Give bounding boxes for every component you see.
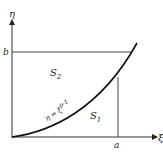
tick-b: b bbox=[3, 47, 9, 57]
tick-a: a bbox=[114, 140, 119, 150]
region-s1: S1 bbox=[90, 110, 101, 124]
region-s2: S2 bbox=[50, 67, 62, 81]
diagram: η ξ b a S2 S1 η = ξp-1 bbox=[0, 0, 163, 157]
x-axis-label: ξ bbox=[158, 132, 163, 143]
curve-label: η = ξp-1 bbox=[42, 98, 72, 123]
y-axis-label: η bbox=[9, 8, 15, 19]
